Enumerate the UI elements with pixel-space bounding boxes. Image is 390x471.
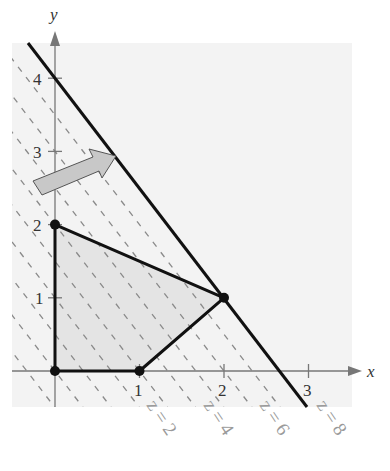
- y-axis-arrowhead: [50, 31, 60, 46]
- vertex-2-1: [219, 293, 229, 303]
- y-tick-label-4: 4: [33, 70, 42, 89]
- y-axis-label: y: [48, 5, 58, 24]
- vertex-0-0: [50, 366, 60, 376]
- vertex-0-2: [50, 220, 60, 230]
- linear-programming-diagram: 1 2 3 1 2 3 4 x y z = 2 z = 4 z = 6 z = …: [0, 0, 390, 471]
- x-axis-label: x: [366, 362, 375, 381]
- x-axis-arrowhead: [348, 366, 362, 376]
- y-tick-label-2: 2: [33, 216, 42, 235]
- x-tick-label-3: 3: [303, 381, 312, 400]
- y-tick-label-1: 1: [35, 289, 44, 308]
- y-tick-label-3: 3: [33, 143, 42, 162]
- vertex-1-0: [135, 366, 145, 376]
- x-tick-label-1: 1: [134, 381, 143, 400]
